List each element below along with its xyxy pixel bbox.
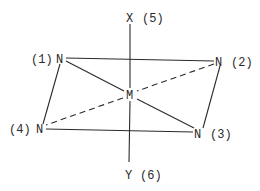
bond-n1-m xyxy=(66,61,124,91)
equatorial-index-3: (3) xyxy=(210,128,232,142)
bond-n1-n2 xyxy=(66,58,214,61)
axial-top-atom: X xyxy=(126,12,133,26)
bond-n2-n3 xyxy=(203,66,220,128)
bond-m-y xyxy=(129,101,130,162)
axial-bottom-index: (6) xyxy=(140,169,162,183)
bond-m-n4 xyxy=(46,98,123,125)
equatorial-index-1: (1) xyxy=(31,53,53,67)
equatorial-index-2: (2) xyxy=(231,56,253,70)
bond-n2-m xyxy=(137,64,214,91)
axial-bottom-atom: Y xyxy=(125,169,132,183)
octahedral-complex-diagram: X (5) (1) N N (2) M (4) N N (3) Y (6) xyxy=(0,0,260,191)
bond-n3-n4 xyxy=(46,129,193,132)
equatorial-index-4: (4) xyxy=(9,123,31,137)
equatorial-atom-2: N xyxy=(215,56,222,70)
bond-m-n3 xyxy=(137,99,194,128)
axial-top-index: (5) xyxy=(142,12,164,26)
central-metal-atom: M xyxy=(126,89,133,103)
bond-n4-n1 xyxy=(43,64,60,124)
equatorial-atom-4: N xyxy=(36,123,43,137)
equatorial-atom-3: N xyxy=(194,128,201,142)
equatorial-atom-1: N xyxy=(56,53,63,67)
